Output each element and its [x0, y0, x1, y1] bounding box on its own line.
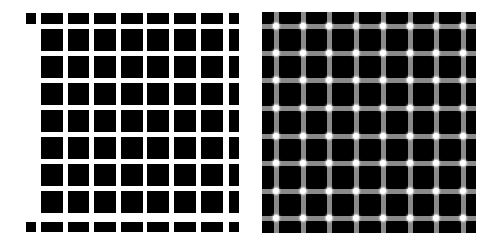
- intersection-dot: [433, 77, 439, 83]
- intersection-dot: [407, 188, 413, 194]
- grid-line-vertical: [301, 12, 306, 233]
- intersection-dot: [273, 23, 279, 29]
- intersection-dot: [460, 133, 466, 139]
- intersection-dot: [326, 160, 332, 166]
- intersection-dot: [300, 23, 306, 29]
- grid-line-vertical: [327, 12, 332, 233]
- intersection-dot: [353, 105, 359, 111]
- intersection-dot: [326, 50, 332, 56]
- intersection-dot: [433, 23, 439, 29]
- intersection-dot: [273, 50, 279, 56]
- grid-line-vertical: [408, 12, 413, 233]
- intersection-dot: [300, 77, 306, 83]
- intersection-dot: [353, 50, 359, 56]
- grid-line-vertical: [461, 12, 466, 233]
- intersection-dot: [460, 23, 466, 29]
- intersection-dot: [353, 215, 359, 221]
- intersection-dot: [380, 215, 386, 221]
- intersection-dot: [380, 50, 386, 56]
- intersection-dot: [300, 215, 306, 221]
- intersection-dot: [273, 188, 279, 194]
- grid-line-horizontal: [262, 24, 476, 29]
- intersection-dot: [326, 215, 332, 221]
- intersection-dot: [326, 23, 332, 29]
- intersection-dot: [380, 133, 386, 139]
- intersection-dot: [273, 77, 279, 83]
- intersection-dot: [300, 188, 306, 194]
- intersection-dot: [433, 105, 439, 111]
- grid-line-horizontal: [262, 78, 476, 83]
- intersection-dot: [273, 105, 279, 111]
- intersection-dot: [460, 77, 466, 83]
- grid-line-horizontal: [262, 134, 476, 139]
- grid-line-horizontal: [262, 189, 476, 194]
- intersection-dot: [460, 50, 466, 56]
- intersection-dot: [407, 50, 413, 56]
- intersection-dot: [300, 105, 306, 111]
- intersection-dot: [380, 77, 386, 83]
- intersection-dot: [300, 160, 306, 166]
- grid-line-vertical: [354, 12, 359, 233]
- intersection-dot: [407, 160, 413, 166]
- grid-line-vertical: [434, 12, 439, 233]
- intersection-dot: [433, 133, 439, 139]
- intersection-dot: [460, 105, 466, 111]
- grid-line-horizontal: [262, 106, 476, 111]
- intersection-dot: [460, 188, 466, 194]
- intersection-dot: [273, 160, 279, 166]
- grid-background: [262, 12, 476, 233]
- intersection-dot: [460, 160, 466, 166]
- grid-line-horizontal: [262, 161, 476, 166]
- intersection-dot: [433, 50, 439, 56]
- intersection-dot: [353, 188, 359, 194]
- intersection-dot: [353, 160, 359, 166]
- grid-line-vertical: [381, 12, 386, 233]
- intersection-dot: [353, 77, 359, 83]
- intersection-dot: [433, 188, 439, 194]
- intersection-dot: [433, 160, 439, 166]
- intersection-dot: [326, 133, 332, 139]
- grid-line-vertical: [274, 12, 279, 233]
- intersection-dot: [353, 133, 359, 139]
- intersection-dot: [380, 188, 386, 194]
- intersection-dot: [326, 77, 332, 83]
- intersection-dot: [380, 23, 386, 29]
- intersection-dot: [273, 133, 279, 139]
- intersection-dot: [326, 188, 332, 194]
- grid-line-horizontal: [262, 216, 476, 221]
- intersection-dot: [407, 23, 413, 29]
- intersection-dot: [300, 133, 306, 139]
- intersection-dot: [407, 133, 413, 139]
- intersection-dot: [380, 160, 386, 166]
- intersection-dot: [407, 105, 413, 111]
- intersection-dot: [353, 23, 359, 29]
- intersection-dot: [460, 215, 466, 221]
- grid-line-horizontal: [262, 51, 476, 56]
- scintillating-grid-panel: [0, 0, 500, 246]
- intersection-dot: [273, 215, 279, 221]
- intersection-dot: [380, 105, 386, 111]
- intersection-dot: [433, 215, 439, 221]
- intersection-dot: [326, 105, 332, 111]
- intersection-dot: [300, 50, 306, 56]
- intersection-dot: [407, 215, 413, 221]
- intersection-dot: [407, 77, 413, 83]
